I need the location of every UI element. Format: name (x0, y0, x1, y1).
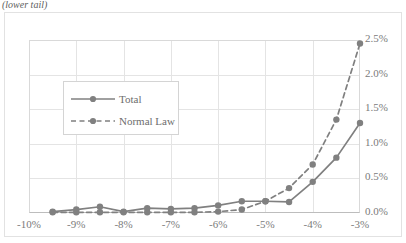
data-point-marker (120, 209, 126, 215)
data-point-marker (73, 209, 79, 215)
data-point-marker (215, 208, 221, 214)
x-axis-tick-label: -8% (114, 218, 132, 230)
data-point-marker (357, 120, 363, 126)
data-point-marker (191, 209, 197, 215)
x-axis-tick-label: -10% (17, 218, 41, 230)
chart-legend: Total Normal Law (63, 81, 179, 135)
data-point-marker (215, 202, 221, 208)
x-axis-tick-label: -6% (209, 218, 227, 230)
y-axis-tick-label: 2.0% (365, 68, 388, 79)
legend-swatch-dashed-icon (71, 114, 115, 128)
legend-label-total: Total (119, 93, 141, 105)
data-point-marker (262, 198, 268, 204)
data-point-marker (333, 116, 339, 122)
data-point-marker (97, 204, 103, 210)
y-axis-tick-label: 1.5% (365, 102, 388, 113)
data-point-marker (310, 179, 316, 185)
data-point-marker (310, 161, 316, 167)
data-point-marker (239, 198, 245, 204)
data-point-marker (168, 209, 174, 215)
data-point-marker (333, 154, 339, 160)
y-axis-tick-label: 1.0% (365, 137, 388, 148)
x-axis-tick-label: -7% (162, 218, 180, 230)
y-axis-tick-label: 2.5% (365, 33, 388, 44)
legend-swatch-solid-icon (71, 92, 115, 106)
data-point-marker (239, 206, 245, 212)
legend-entry-total: Total (64, 88, 178, 110)
x-axis-tick-label: -9% (67, 218, 85, 230)
x-axis-tick-label: -5% (256, 218, 274, 230)
y-axis-tick-label: 0.0% (365, 206, 388, 217)
chart-caption: (lower tail) (2, 0, 47, 11)
data-point-marker (49, 209, 55, 215)
y-axis-tick-label: 0.5% (365, 171, 388, 182)
legend-entry-normal-law: Normal Law (64, 110, 178, 132)
x-axis-tick-label: -4% (304, 218, 322, 230)
data-point-marker (97, 209, 103, 215)
chart-page: (lower tail) 0.0%0.5%1.0%1.5%2.0%2.5% -1… (0, 0, 406, 243)
chart-frame: 0.0%0.5%1.0%1.5%2.0%2.5% -10%-9%-8%-7%-6… (4, 12, 402, 237)
data-point-marker (286, 199, 292, 205)
data-point-marker (144, 209, 150, 215)
data-point-marker (357, 40, 363, 46)
data-point-marker (286, 185, 292, 191)
x-axis-tick-label: -3% (351, 218, 369, 230)
legend-label-normal-law: Normal Law (119, 115, 175, 127)
